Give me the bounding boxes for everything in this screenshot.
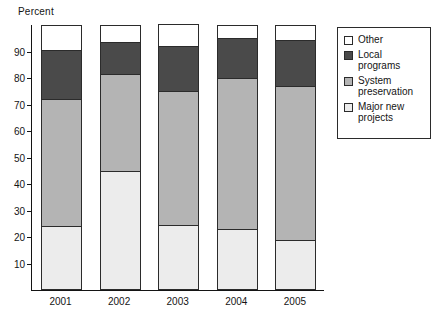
bar-segment-2005-other[interactable] — [275, 25, 316, 40]
bar-segment-2001-system-preservation[interactable] — [41, 99, 82, 226]
legend-item-local-programs[interactable]: Local programs — [344, 49, 425, 72]
legend-label: Major new projects — [358, 101, 404, 124]
bar-2002[interactable] — [100, 25, 141, 290]
legend-item-major-new-projects[interactable]: Major new projects — [344, 101, 425, 124]
bar-segment-2003-major-new-projects[interactable] — [158, 225, 199, 290]
legend-swatch-icon — [344, 51, 353, 60]
y-tick-label: 40 — [14, 179, 25, 190]
bar-segment-2002-major-new-projects[interactable] — [100, 171, 141, 290]
y-tick-mark — [27, 105, 32, 106]
y-tick-label: 60 — [14, 126, 25, 137]
bar-2003[interactable] — [158, 25, 199, 290]
bar-2001[interactable] — [41, 25, 82, 290]
y-tick-mark — [27, 52, 32, 53]
y-tick-label: 30 — [14, 205, 25, 216]
legend-swatch-icon — [344, 77, 353, 86]
bar-segment-2004-major-new-projects[interactable] — [217, 229, 258, 290]
y-tick-mark — [27, 131, 32, 132]
plot-inner: 102030405060708090 — [32, 25, 324, 290]
bar-segment-2003-system-preservation[interactable] — [158, 91, 199, 225]
y-tick-mark — [27, 264, 32, 265]
y-tick-mark — [27, 78, 32, 79]
bar-2004[interactable] — [217, 25, 258, 290]
y-tick-label: 80 — [14, 73, 25, 84]
y-tick-label: 20 — [14, 232, 25, 243]
plot-area: 102030405060708090 — [31, 25, 324, 291]
legend-item-other[interactable]: Other — [344, 34, 425, 46]
bar-segment-2005-system-preservation[interactable] — [275, 86, 316, 240]
legend-swatch-icon — [344, 103, 353, 112]
bar-segment-2002-local-programs[interactable] — [100, 42, 141, 74]
bar-segment-2002-other[interactable] — [100, 25, 141, 42]
legend-label: Other — [358, 34, 383, 46]
y-axis-title: Percent — [18, 6, 54, 17]
y-tick-mark — [27, 211, 32, 212]
bar-segment-2005-local-programs[interactable] — [275, 40, 316, 86]
y-tick-label: 50 — [14, 152, 25, 163]
chart-legend: OtherLocal programsSystem preservationMa… — [337, 27, 431, 139]
bar-segment-2001-other[interactable] — [41, 25, 82, 50]
bar-2005[interactable] — [275, 25, 316, 290]
y-tick-label: 70 — [14, 99, 25, 110]
y-tick-mark — [27, 237, 32, 238]
stacked-bar-chart: Percent 102030405060708090 2001200220032… — [0, 0, 437, 326]
legend-label: Local programs — [358, 49, 400, 72]
x-axis-label-2005: 2005 — [260, 296, 330, 307]
bar-segment-2003-other[interactable] — [158, 24, 199, 47]
y-tick-label: 90 — [14, 46, 25, 57]
bar-segment-2004-other[interactable] — [217, 25, 258, 38]
bar-segment-2004-system-preservation[interactable] — [217, 78, 258, 229]
legend-label: System preservation — [358, 75, 413, 98]
legend-swatch-icon — [344, 36, 353, 45]
bar-segment-2004-local-programs[interactable] — [217, 38, 258, 78]
y-tick-mark — [27, 184, 32, 185]
legend-item-system-preservation[interactable]: System preservation — [344, 75, 425, 98]
bar-segment-2001-local-programs[interactable] — [41, 50, 82, 99]
bar-segment-2002-system-preservation[interactable] — [100, 74, 141, 171]
bar-segment-2005-major-new-projects[interactable] — [275, 240, 316, 290]
bar-segment-2003-local-programs[interactable] — [158, 46, 199, 91]
y-tick-mark — [27, 158, 32, 159]
y-tick-label: 10 — [14, 258, 25, 269]
bar-segment-2001-major-new-projects[interactable] — [41, 226, 82, 290]
